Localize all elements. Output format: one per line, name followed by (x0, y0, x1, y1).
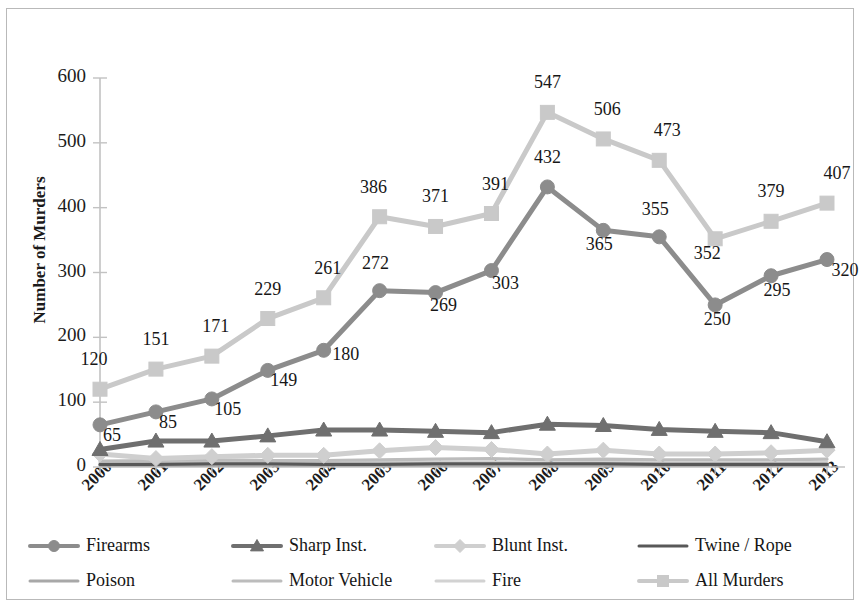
data-label-firearms-2012: 295 (764, 280, 791, 301)
legend-item-fire[interactable]: Fire (434, 563, 637, 598)
legend-swatch-icon (28, 572, 80, 590)
data-label-all-murders-2009: 506 (594, 99, 621, 120)
legend-swatch-icon (637, 537, 689, 555)
legend-swatch-icon (28, 537, 80, 555)
data-label-all-murders-2003: 229 (254, 279, 281, 300)
legend-item-sharp-inst[interactable]: Sharp Inst. (231, 528, 434, 563)
data-label-firearms-2011: 250 (704, 309, 731, 330)
data-label-all-murders-2011: 352 (694, 243, 721, 264)
data-label-all-murders-2005: 386 (360, 177, 387, 198)
legend-swatch-icon (231, 572, 283, 590)
chart-container: Number of Murders 0100200300400500600 20… (0, 0, 862, 611)
legend-label: Firearms (86, 535, 150, 556)
data-label-all-murders-2000: 120 (81, 349, 108, 370)
data-label-firearms-2009: 365 (586, 234, 613, 255)
legend-label: Poison (86, 570, 135, 591)
data-label-all-murders-2002: 171 (202, 316, 229, 337)
data-label-all-murders-2007: 391 (482, 174, 509, 195)
legend-swatch-icon (434, 537, 486, 555)
legend-item-all-murders[interactable]: All Murders (637, 563, 840, 598)
legend-row-1: FirearmsSharp Inst.Blunt Inst.Twine / Ro… (28, 528, 840, 563)
data-label-all-murders-2010: 473 (654, 120, 681, 141)
legend-row-2: PoisonMotor VehicleFireAll Murders (28, 563, 840, 598)
data-label-all-murders-2006: 371 (422, 186, 449, 207)
data-label-firearms-2006: 269 (430, 295, 457, 316)
series-all-murders (93, 105, 834, 396)
data-label-all-murders-2001: 151 (142, 329, 169, 350)
data-label-firearms-2001: 85 (159, 412, 177, 433)
data-label-firearms-2013: 320 (832, 260, 859, 281)
data-label-all-murders-2008: 547 (534, 72, 561, 93)
data-label-firearms-2010: 355 (642, 199, 669, 220)
legend-item-blunt-inst[interactable]: Blunt Inst. (434, 528, 637, 563)
data-label-firearms-2005: 272 (362, 253, 389, 274)
legend-label: Fire (492, 570, 521, 591)
data-label-all-murders-2004: 261 (314, 258, 341, 279)
data-label-all-murders-2013: 407 (824, 163, 851, 184)
legend-swatch-icon (231, 537, 283, 555)
axes (93, 78, 845, 474)
data-label-firearms-2002: 105 (214, 399, 241, 420)
chart-legend: FirearmsSharp Inst.Blunt Inst.Twine / Ro… (28, 528, 840, 598)
legend-item-twine-rope[interactable]: Twine / Rope (637, 528, 840, 563)
series-twine-rope (100, 464, 827, 465)
legend-swatch-icon (637, 572, 689, 590)
data-label-firearms-2008: 432 (534, 147, 561, 168)
legend-label: Blunt Inst. (492, 535, 568, 556)
legend-label: Twine / Rope (695, 535, 792, 556)
data-label-firearms-2000: 65 (103, 425, 121, 446)
legend-item-motor-vehicle[interactable]: Motor Vehicle (231, 563, 434, 598)
data-label-firearms-2007: 303 (492, 273, 519, 294)
legend-label: All Murders (695, 570, 784, 591)
legend-item-poison[interactable]: Poison (28, 563, 231, 598)
data-label-all-murders-2012: 379 (758, 181, 785, 202)
legend-label: Motor Vehicle (289, 570, 392, 591)
data-label-firearms-2003: 149 (270, 370, 297, 391)
legend-item-firearms[interactable]: Firearms (28, 528, 231, 563)
legend-label: Sharp Inst. (289, 535, 367, 556)
data-label-firearms-2004: 180 (332, 344, 359, 365)
legend-swatch-icon (434, 572, 486, 590)
